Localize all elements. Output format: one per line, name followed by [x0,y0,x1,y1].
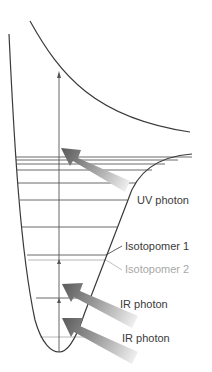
ir-photon-label-2: IR photon [122,333,170,344]
repulsive-curve [30,21,190,132]
ir-photon-label-1: IR photon [120,299,168,310]
arrowhead-top [57,71,61,78]
isotopomer-1-label: Isotopomer 1 [125,241,189,252]
potential-energy-diagram [0,0,212,372]
isotopomer-2-leader [106,260,122,270]
arrowhead-level-2 [57,298,61,303]
uv-photon-label: UV photon [137,195,189,206]
isotopomer-2-label: Isotopomer 2 [125,264,189,275]
vertical-excitation-arrow [57,71,61,352]
